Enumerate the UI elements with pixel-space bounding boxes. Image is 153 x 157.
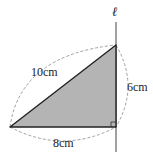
horizontal-leg-label: 8cm: [53, 136, 74, 150]
axis-label: ℓ: [112, 4, 118, 19]
triangle-diagram: ℓ 10cm 6cm 8cm: [0, 0, 153, 157]
shaded-triangle: [10, 45, 116, 127]
vertical-leg-label: 6cm: [127, 80, 148, 94]
hypotenuse-label: 10cm: [31, 65, 58, 79]
